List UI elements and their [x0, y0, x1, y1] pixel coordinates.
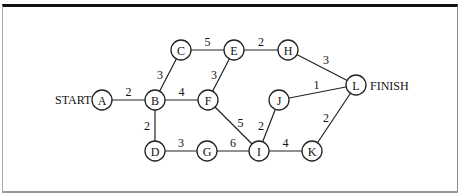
edge-weight-b-c: 3 [157, 68, 163, 82]
node-g: G [197, 141, 217, 161]
edge-h-l [288, 50, 356, 85]
edge-weight-j-l: 1 [314, 78, 320, 92]
node-h: H [278, 40, 298, 60]
edge-weight-h-l: 3 [323, 53, 329, 67]
edge-weight-i-k: 4 [283, 136, 289, 150]
start-label: START [55, 93, 92, 107]
edges-layer [102, 50, 356, 151]
node-l: L [346, 75, 366, 95]
node-d: D [145, 141, 165, 161]
node-c: C [171, 40, 191, 60]
edge-weight-k-l: 2 [323, 111, 329, 125]
node-a: A [92, 90, 112, 110]
edge-weight-d-g: 3 [178, 136, 184, 150]
network-diagram: 234253235362142 ABCDEFGHIJKL START FINIS… [0, 0, 462, 196]
node-label: I [257, 145, 261, 159]
node-label: E [230, 44, 237, 58]
node-label: H [284, 44, 293, 58]
node-label: F [205, 94, 212, 108]
node-label: J [277, 94, 282, 108]
node-k: K [302, 141, 322, 161]
finish-label: FINISH [370, 79, 409, 93]
node-i: I [249, 141, 269, 161]
node-label: B [151, 94, 159, 108]
node-label: D [151, 145, 160, 159]
node-label: C [177, 44, 185, 58]
node-b: B [145, 90, 165, 110]
edge-weight-b-f: 4 [179, 85, 185, 99]
edge-weight-g-i: 6 [230, 136, 236, 150]
edge-weight-b-d: 2 [144, 119, 150, 133]
edge-weight-i-j: 2 [258, 119, 264, 133]
edge-k-l [312, 85, 356, 151]
edge-weight-e-h: 2 [258, 35, 264, 49]
edge-weight-f-e: 3 [211, 68, 217, 82]
node-label: G [203, 145, 212, 159]
node-f: F [198, 90, 218, 110]
node-label: K [308, 145, 317, 159]
edge-weight-f-i: 5 [238, 116, 244, 130]
node-j: J [269, 90, 289, 110]
node-e: E [224, 40, 244, 60]
edge-weight-c-e: 5 [205, 35, 211, 49]
node-label: L [352, 79, 359, 93]
node-label: A [98, 94, 107, 108]
edge-weight-a-b: 2 [126, 85, 132, 99]
